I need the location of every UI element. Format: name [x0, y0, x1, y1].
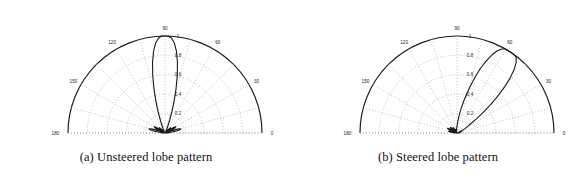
theta-tick-label: 150 [362, 79, 370, 84]
grid-spoke [388, 64, 457, 133]
polar-axes: 03060901201501800.20.40.60.81 [292, 0, 584, 148]
r-tick-labels: 0.20.40.60.81 [175, 34, 182, 117]
grid-spoke [117, 49, 166, 133]
theta-tick-label: 60 [507, 40, 513, 45]
r-tick-label: 1 [469, 34, 472, 39]
grid-spoke [409, 49, 458, 133]
grid-spoke [373, 85, 457, 134]
theta-tick-labels: 0306090120150180 [52, 26, 274, 137]
r-tick-label: 0.4 [175, 92, 182, 97]
r-tick-label: 0.8 [467, 53, 474, 58]
theta-tick-label: 180 [52, 131, 60, 136]
grid-spoke [96, 64, 165, 133]
grid-spoke [81, 85, 165, 134]
theta-tick-label: 120 [400, 40, 408, 45]
lobe-pattern-curve [447, 49, 516, 133]
theta-tick-label: 0 [271, 131, 274, 136]
r-tick-label: 0.8 [175, 53, 182, 58]
polar-axes: 03060901201501800.20.40.60.81 [0, 0, 292, 148]
theta-tick-label: 0 [563, 131, 566, 136]
theta-tick-label: 30 [546, 79, 552, 84]
theta-tick-label: 150 [70, 79, 78, 84]
theta-tick-labels: 0306090120150180 [344, 26, 566, 137]
r-tick-labels: 0.20.40.60.81 [467, 34, 474, 117]
grid-spoke [140, 39, 165, 133]
grid-spoke [432, 39, 457, 133]
angular-gridlines [360, 36, 554, 133]
theta-tick-label: 60 [215, 40, 221, 45]
angular-gridlines [68, 36, 262, 133]
panel-caption-a: (a) Unsteered lobe pattern [0, 150, 292, 165]
theta-tick-label: 90 [454, 26, 460, 31]
r-tick-label: 1 [177, 34, 180, 39]
figure-panel-a: 03060901201501800.20.40.60.81 (a) Unstee… [0, 0, 292, 187]
theta-tick-label: 30 [254, 79, 260, 84]
grid-arc [107, 75, 223, 133]
grid-spoke [363, 108, 457, 133]
polar-plot-steered: 03060901201501800.20.40.60.81 [292, 0, 584, 148]
panel-caption-b: (b) Steered lobe pattern [292, 150, 584, 165]
r-tick-label: 0.2 [175, 111, 182, 116]
r-tick-label: 0.4 [467, 92, 474, 97]
figure-container: 03060901201501800.20.40.60.81 (a) Unstee… [0, 0, 584, 187]
grid-spoke [165, 49, 214, 133]
r-tick-label: 0.6 [467, 72, 474, 77]
figure-panel-b: 03060901201501800.20.40.60.81 (b) Steere… [292, 0, 584, 187]
grid-spoke [457, 49, 506, 133]
theta-tick-label: 120 [108, 40, 116, 45]
r-tick-label: 0.6 [175, 72, 182, 77]
theta-tick-label: 90 [162, 26, 168, 31]
polar-plot-unsteered: 03060901201501800.20.40.60.81 [0, 0, 292, 148]
theta-tick-label: 180 [344, 131, 352, 136]
r-tick-label: 0.2 [467, 111, 474, 116]
